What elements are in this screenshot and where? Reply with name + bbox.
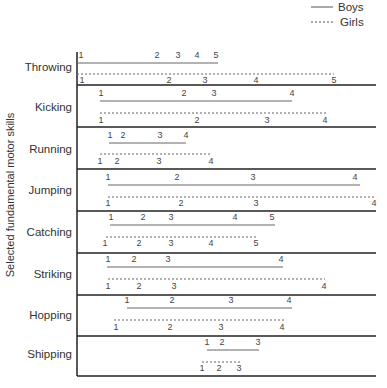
legend-boys-label: Boys [338, 1, 364, 13]
row-label: Running [29, 143, 72, 155]
skill-row-kicking: Kicking12341234 [35, 88, 328, 125]
girls-stage-label: 3 [156, 156, 161, 166]
boys-stage-label: 4 [289, 88, 294, 98]
girls-stage-label: 3 [202, 75, 207, 85]
row-label: Striking [34, 268, 72, 280]
legend-girls-label: Girls [340, 16, 364, 28]
girls-stage-label: 2 [194, 115, 199, 125]
boys-stage-label: 2 [219, 337, 224, 347]
y-axis-label: Selected fundamental motor skills [4, 112, 16, 277]
girls-stage-label: 1 [79, 75, 84, 85]
boys-stage-label: 3 [250, 172, 255, 182]
girls-stage-label: 2 [166, 75, 171, 85]
girls-stage-label: 2 [136, 238, 141, 248]
boys-stage-label: 1 [108, 212, 113, 222]
motor-skills-chart: Boys Girls Selected fundamental motor sk… [0, 0, 387, 388]
boys-stage-label: 1 [78, 50, 83, 60]
girls-stage-label: 4 [321, 281, 326, 291]
girls-stage-label: 1 [97, 156, 102, 166]
girls-stage-label: 4 [208, 238, 213, 248]
girls-stage-label: 2 [178, 198, 183, 208]
boys-stage-label: 3 [175, 50, 180, 60]
girls-stage-label: 3 [236, 363, 241, 373]
skill-row-running: Running12341234 [29, 130, 213, 166]
boys-stage-label: 1 [105, 172, 110, 182]
skill-row-jumping: Jumping12341234 [29, 172, 377, 208]
girls-stage-label: 2 [114, 156, 119, 166]
girls-stage-label: 4 [371, 198, 376, 208]
girls-stage-label: 4 [253, 75, 258, 85]
boys-stage-label: 3 [255, 337, 260, 347]
boys-stage-label: 2 [140, 212, 145, 222]
girls-stage-label: 2 [216, 363, 221, 373]
boys-stage-label: 1 [98, 88, 103, 98]
row-label: Hopping [29, 309, 72, 321]
row-label: Jumping [29, 184, 72, 196]
girls-stage-label: 3 [253, 198, 258, 208]
girls-stage-label: 3 [168, 238, 173, 248]
girls-stage-label: 4 [208, 156, 213, 166]
boys-stage-label: 5 [269, 212, 274, 222]
girls-stage-label: 4 [322, 115, 327, 125]
boys-stage-label: 1 [124, 295, 129, 305]
boys-stage-label: 4 [286, 295, 291, 305]
legend: Boys Girls [311, 1, 364, 28]
row-label: Throwing [25, 61, 72, 73]
boys-stage-label: 3 [228, 295, 233, 305]
boys-stage-label: 4 [352, 172, 357, 182]
boys-stage-label: 4 [278, 254, 283, 264]
boys-stage-label: 2 [169, 295, 174, 305]
boys-stage-label: 4 [232, 212, 237, 222]
boys-stage-label: 5 [213, 50, 218, 60]
girls-stage-label: 2 [136, 281, 141, 291]
boys-stage-label: 1 [204, 337, 209, 347]
boys-stage-label: 1 [105, 254, 110, 264]
row-label: Shipping [27, 348, 72, 360]
girls-stage-label: 5 [331, 75, 336, 85]
girls-stage-label: 1 [98, 115, 103, 125]
girls-stage-label: 1 [105, 281, 110, 291]
girls-stage-label: 2 [167, 322, 172, 332]
boys-stage-label: 2 [154, 50, 159, 60]
girls-stage-label: 1 [113, 322, 118, 332]
boys-stage-label: 2 [131, 254, 136, 264]
boys-stage-label: 3 [157, 130, 162, 140]
girls-stage-label: 1 [105, 198, 110, 208]
boys-stage-label: 3 [165, 254, 170, 264]
girls-stage-label: 3 [264, 115, 269, 125]
row-label: Catching [27, 226, 72, 238]
boys-stage-label: 2 [181, 88, 186, 98]
boys-stage-label: 2 [174, 172, 179, 182]
girls-stage-label: 4 [279, 322, 284, 332]
skill-row-throwing: Throwing1234512345 [25, 50, 337, 85]
skill-row-catching: Catching1234512345 [27, 212, 275, 248]
boys-stage-label: 2 [120, 130, 125, 140]
boys-stage-label: 1 [107, 130, 112, 140]
girls-stage-label: 3 [171, 281, 176, 291]
girls-stage-label: 5 [253, 238, 258, 248]
skill-row-hopping: Hopping12341234 [29, 295, 292, 332]
boys-stage-label: 3 [211, 88, 216, 98]
girls-stage-label: 1 [102, 238, 107, 248]
boys-stage-label: 4 [194, 50, 199, 60]
row-label: Kicking [35, 101, 72, 113]
boys-stage-label: 4 [183, 130, 188, 140]
skill-row-shipping: Shipping123123 [27, 337, 260, 373]
girls-stage-label: 1 [199, 363, 204, 373]
girls-stage-label: 3 [218, 322, 223, 332]
boys-stage-label: 3 [168, 212, 173, 222]
